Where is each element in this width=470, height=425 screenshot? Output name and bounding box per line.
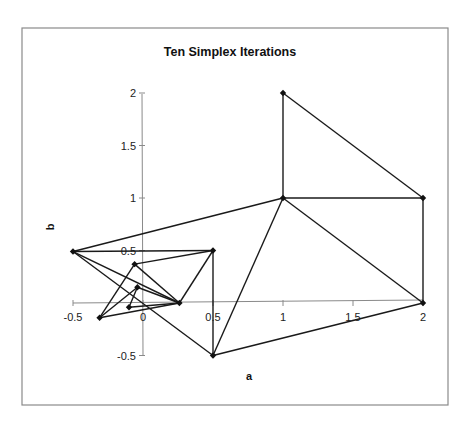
chart-frame: [22, 28, 448, 405]
x-axis-label: a: [246, 370, 253, 382]
simplex-edge: [213, 198, 283, 356]
simplex-edge: [179, 251, 213, 304]
x-tick-label: -0.5: [64, 311, 83, 323]
diamond-marker-icon: [126, 304, 132, 310]
simplex-edges: [73, 93, 423, 356]
simplex-edge: [283, 93, 423, 198]
x-axis: [73, 300, 423, 303]
simplex-edge: [73, 251, 213, 252]
y-tick-label: -0.5: [117, 350, 136, 362]
y-tick-label: 1: [130, 192, 136, 204]
chart-canvas: Ten Simplex Iterations -0.500.511.52 -0.…: [0, 0, 470, 425]
y-axis-label: b: [44, 223, 56, 230]
axes: -0.500.511.52 -0.50.511.52: [64, 87, 427, 362]
x-tick-label: 0: [140, 311, 146, 323]
x-tick-label: 2: [420, 311, 426, 323]
y-tick-label: 1.5: [121, 140, 136, 152]
simplex-vertices: [70, 90, 426, 359]
simplex-edge: [73, 198, 283, 252]
simplex-edge: [283, 198, 423, 303]
x-tick-label: 1: [280, 311, 286, 323]
y-tick-label: 2: [130, 87, 136, 99]
simplex-edge: [137, 287, 179, 303]
simplex-edge: [135, 264, 180, 303]
chart-title: Ten Simplex Iterations: [164, 45, 296, 59]
simplex-edge: [213, 303, 423, 356]
simplex-edge: [135, 251, 213, 265]
